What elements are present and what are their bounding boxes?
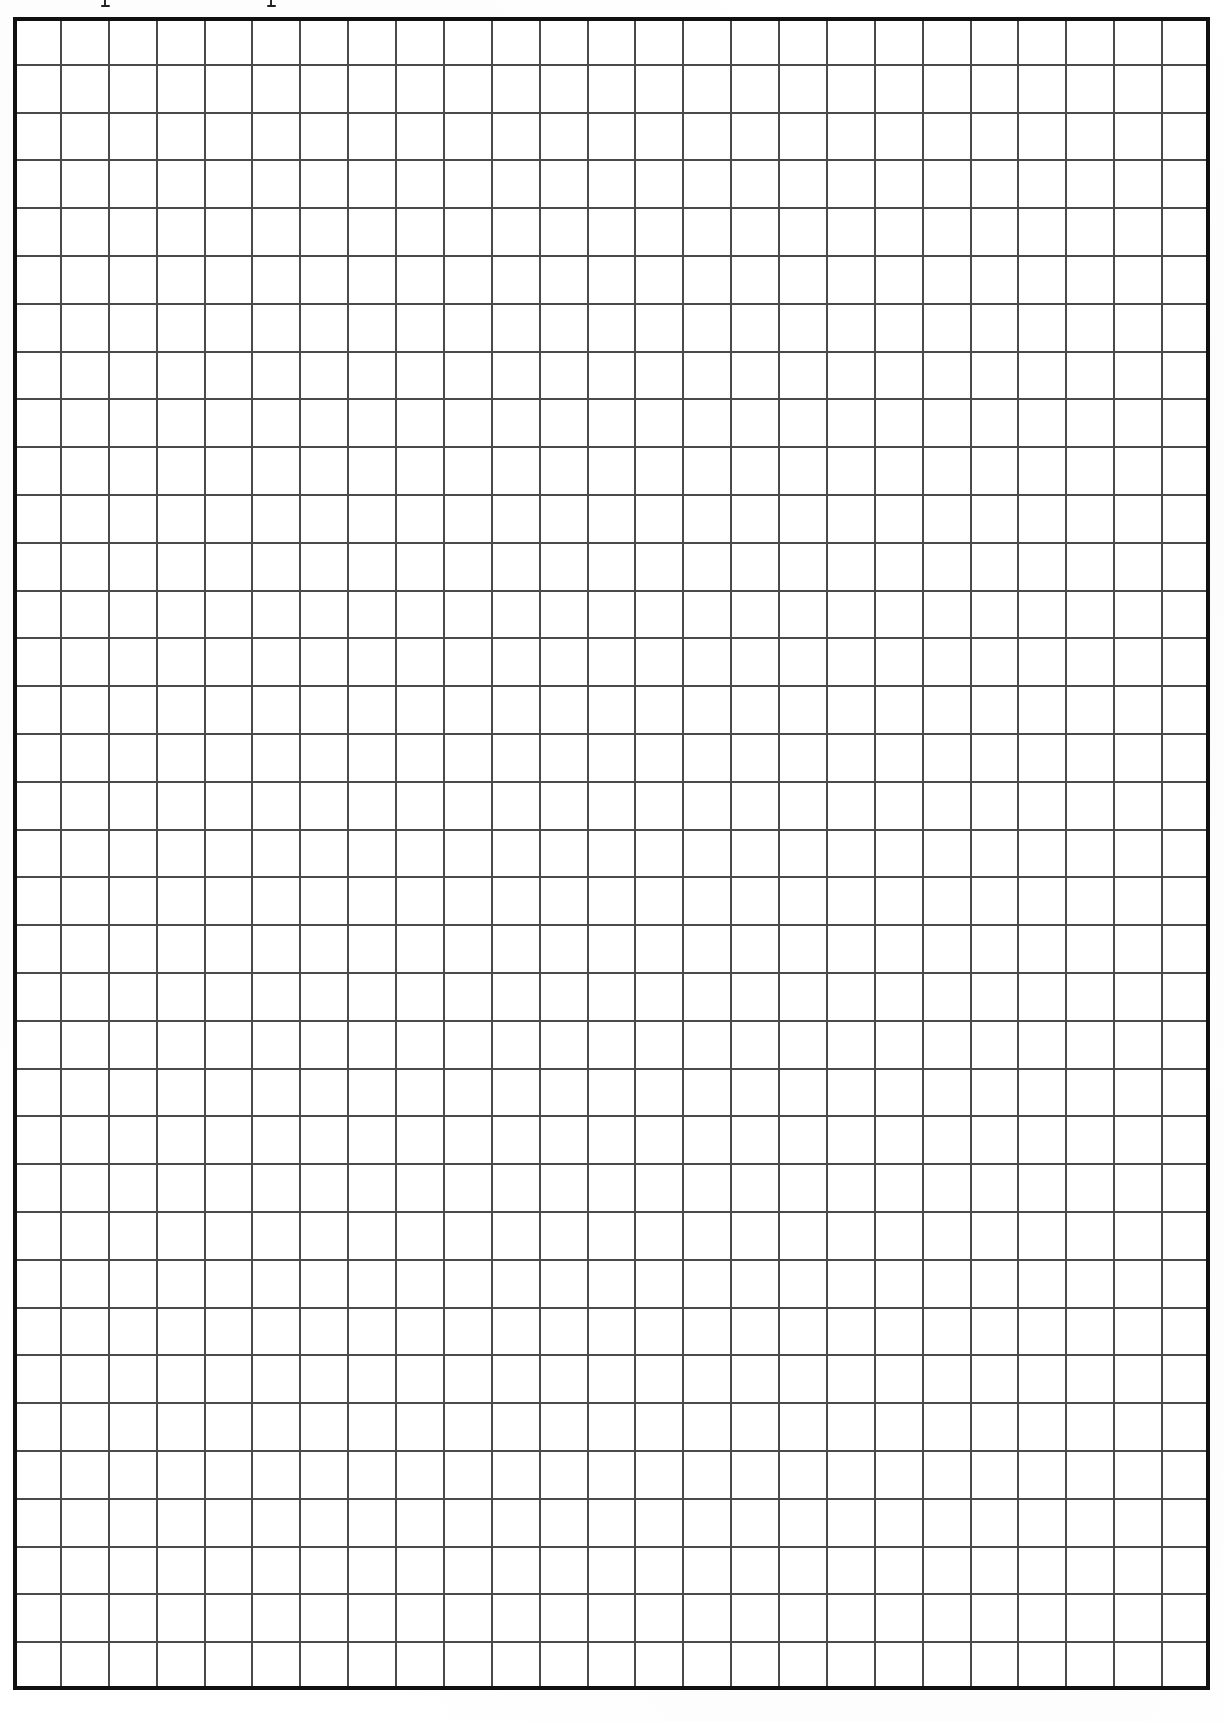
- grid-vertical-line: [970, 17, 972, 1690]
- grid-horizontal-line: [13, 1163, 1210, 1165]
- grid-vertical-line: [491, 17, 493, 1690]
- top-edge-ink-mark: [101, 0, 110, 7]
- grid-horizontal-line: [13, 781, 1210, 783]
- grid-horizontal-line: [13, 1546, 1210, 1548]
- grid-vertical-line: [251, 17, 253, 1690]
- page-canvas: [0, 0, 1224, 1722]
- grid-vertical-line: [874, 17, 876, 1690]
- grid-vertical-line: [1161, 17, 1163, 1690]
- grid-vertical-line: [1017, 17, 1019, 1690]
- grid-horizontal-line: [13, 733, 1210, 735]
- ink-mark-foot: [101, 5, 110, 7]
- grid-horizontal-line: [13, 1402, 1210, 1404]
- grid-horizontal-line: [13, 1498, 1210, 1500]
- grid-vertical-line: [299, 17, 301, 1690]
- grid-vertical-line: [443, 17, 445, 1690]
- grid-horizontal-line: [13, 1307, 1210, 1309]
- grid-vertical-line: [634, 17, 636, 1690]
- grid-horizontal-line: [13, 64, 1210, 66]
- grid-horizontal-line: [13, 1020, 1210, 1022]
- grid-horizontal-line: [13, 637, 1210, 639]
- grid-vertical-line: [204, 17, 206, 1690]
- grid-vertical-line: [108, 17, 110, 1690]
- grid-horizontal-line: [13, 1450, 1210, 1452]
- grid-horizontal-line: [13, 303, 1210, 305]
- ink-mark-stem: [270, 0, 272, 6]
- grid-vertical-line: [778, 17, 780, 1690]
- grid-vertical-line: [922, 17, 924, 1690]
- grid-horizontal-line: [13, 398, 1210, 400]
- grid-horizontal-line: [13, 351, 1210, 353]
- grid-horizontal-line: [13, 876, 1210, 878]
- grid-horizontal-line: [13, 112, 1210, 114]
- grid-horizontal-line: [13, 1641, 1210, 1643]
- grid-horizontal-line: [13, 1259, 1210, 1261]
- grid-horizontal-line: [13, 829, 1210, 831]
- grid-horizontal-line: [13, 1068, 1210, 1070]
- grid-horizontal-line: [13, 1354, 1210, 1356]
- grid-horizontal-line: [13, 1211, 1210, 1213]
- grid-horizontal-line: [13, 255, 1210, 257]
- grid-vertical-line: [539, 17, 541, 1690]
- grid-vertical-line: [826, 17, 828, 1690]
- ink-mark-foot: [267, 5, 276, 7]
- grid-vertical-line: [730, 17, 732, 1690]
- grid-lines: [13, 17, 1210, 1690]
- grid-horizontal-line: [13, 924, 1210, 926]
- grid-horizontal-line: [13, 494, 1210, 496]
- grid-horizontal-line: [13, 446, 1210, 448]
- grid-horizontal-line: [13, 685, 1210, 687]
- grid-vertical-line: [347, 17, 349, 1690]
- grid-horizontal-line: [13, 207, 1210, 209]
- grid-vertical-line: [682, 17, 684, 1690]
- grid-vertical-line: [1113, 17, 1115, 1690]
- grid-vertical-line: [60, 17, 62, 1690]
- grid-horizontal-line: [13, 1115, 1210, 1117]
- grid-vertical-line: [395, 17, 397, 1690]
- grid-vertical-line: [587, 17, 589, 1690]
- grid-horizontal-line: [13, 159, 1210, 161]
- grid-vertical-line: [1065, 17, 1067, 1690]
- grid-horizontal-line: [13, 590, 1210, 592]
- top-edge-ink-mark: [267, 0, 276, 7]
- grid-horizontal-line: [13, 972, 1210, 974]
- grid-paper: [13, 17, 1210, 1690]
- grid-horizontal-line: [13, 542, 1210, 544]
- grid-vertical-line: [156, 17, 158, 1690]
- grid-horizontal-line: [13, 1593, 1210, 1595]
- ink-mark-stem: [104, 0, 106, 6]
